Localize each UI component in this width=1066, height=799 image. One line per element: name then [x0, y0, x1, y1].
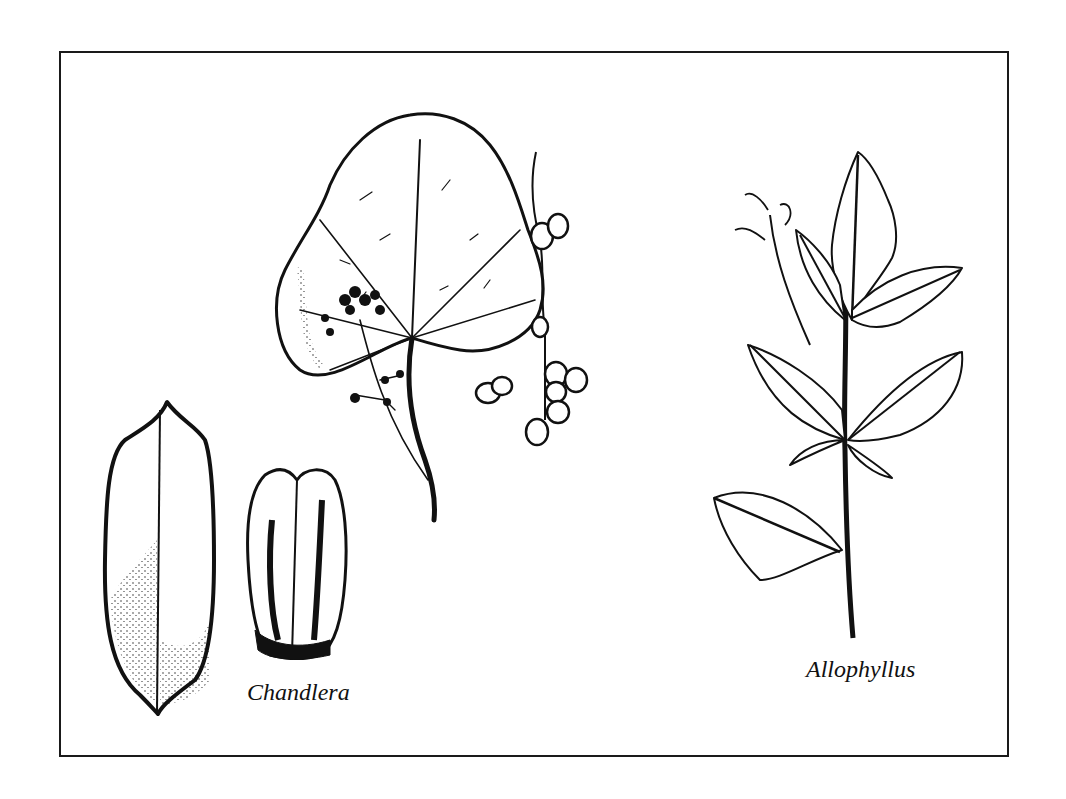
chandlera-fruit-segmented — [248, 470, 347, 660]
cordate-leaf-drawing — [277, 114, 544, 520]
label-chandlera: Chandlera — [247, 679, 350, 706]
label-allophyllus: Allophyllus — [806, 656, 915, 683]
chandlera-fruit-whole — [105, 402, 214, 714]
berry-cluster-drawing — [476, 152, 587, 445]
allophyllus-branch-drawing — [714, 152, 962, 638]
